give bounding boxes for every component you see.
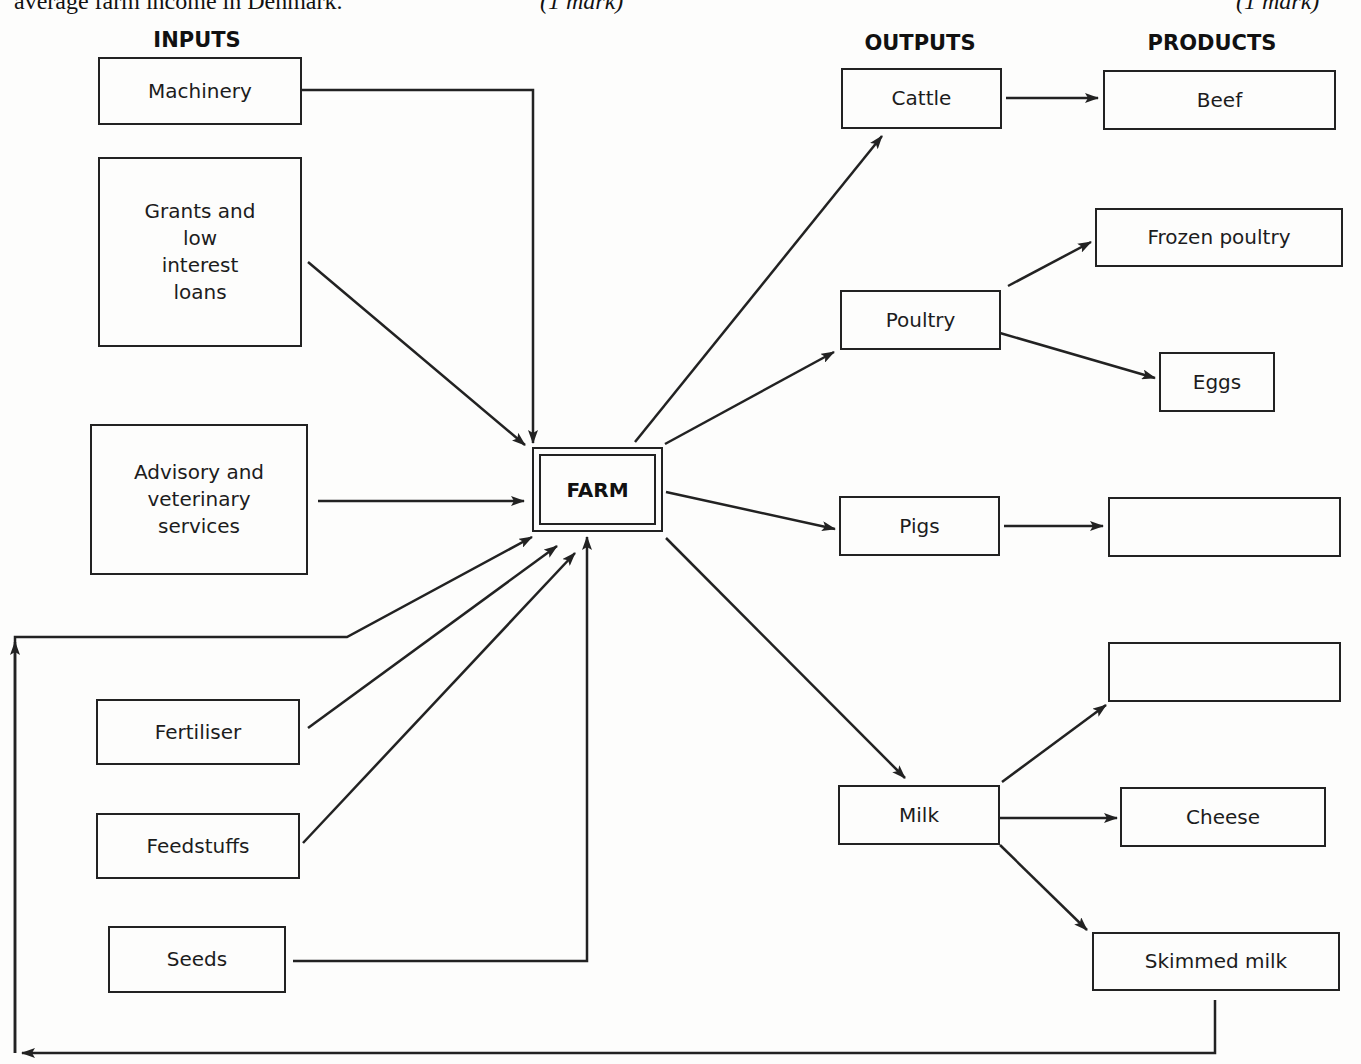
product-box-cheese: Cheese: [1120, 787, 1326, 847]
output-box-poultry: Poultry: [840, 290, 1001, 350]
input-box-fertiliser: Fertiliser: [96, 699, 300, 765]
product-label-beef: Beef: [1197, 87, 1242, 114]
input-label-feedstuffs: Feedstuffs: [147, 833, 250, 860]
input-box-machinery: Machinery: [98, 57, 302, 125]
output-box-pigs: Pigs: [839, 496, 1000, 556]
product-box-pigs-blank[interactable]: [1108, 497, 1341, 557]
product-label-skimmed-milk: Skimmed milk: [1145, 948, 1287, 975]
farm-label: FARM: [539, 454, 656, 525]
product-box-frozen-poultry: Frozen poultry: [1095, 208, 1343, 267]
input-label-seeds: Seeds: [167, 946, 227, 973]
product-box-eggs: Eggs: [1159, 352, 1275, 412]
input-label-fertiliser: Fertiliser: [155, 719, 241, 746]
input-label-advisory: Advisory and veterinary services: [134, 459, 264, 540]
output-label-pigs: Pigs: [899, 513, 939, 540]
diagram-canvas: average farm income in Denmark. (1 mark)…: [0, 0, 1361, 1064]
product-label-frozen-poultry: Frozen poultry: [1148, 224, 1291, 251]
output-box-cattle: Cattle: [841, 68, 1002, 129]
product-label-cheese: Cheese: [1186, 804, 1260, 831]
product-box-beef: Beef: [1103, 70, 1336, 130]
output-label-cattle: Cattle: [892, 85, 952, 112]
product-box-milk-blank[interactable]: [1108, 642, 1341, 702]
product-box-skimmed-milk: Skimmed milk: [1092, 932, 1340, 991]
input-label-grants: Grants and low interest loans: [145, 198, 256, 306]
product-label-eggs: Eggs: [1193, 369, 1241, 396]
input-box-advisory: Advisory and veterinary services: [90, 424, 308, 575]
input-box-feedstuffs: Feedstuffs: [96, 813, 300, 879]
output-label-poultry: Poultry: [886, 307, 956, 334]
input-label-machinery: Machinery: [148, 78, 252, 105]
input-box-seeds: Seeds: [108, 926, 286, 993]
farm-box: FARM: [532, 447, 663, 532]
output-box-milk: Milk: [838, 785, 1000, 845]
input-box-grants: Grants and low interest loans: [98, 157, 302, 347]
output-label-milk: Milk: [899, 802, 939, 829]
